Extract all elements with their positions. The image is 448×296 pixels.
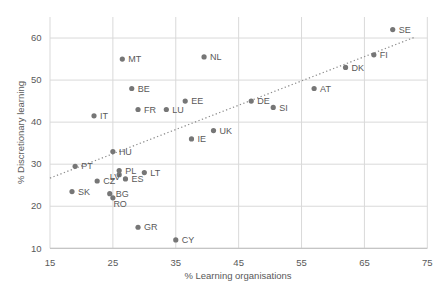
data-point-lu (164, 107, 169, 112)
data-point-label-dk: DK (352, 63, 365, 73)
trendline (50, 37, 415, 178)
data-point-es (123, 176, 128, 181)
data-point-label-si: SI (279, 103, 288, 113)
data-point-label-at: AT (320, 84, 331, 94)
data-point-label-sk: SK (78, 187, 90, 197)
data-point-be (129, 86, 134, 91)
data-point-sk (69, 189, 74, 194)
data-point-label-it: IT (100, 111, 109, 121)
data-point-gr (135, 225, 140, 230)
data-point-fr (135, 107, 140, 112)
data-point-label-mt: MT (128, 54, 141, 64)
x-axis-title: % Learning organisations (184, 270, 291, 281)
data-point-ee (183, 99, 188, 104)
data-point-fi (371, 52, 376, 57)
data-point-label-pt: PT (81, 161, 93, 171)
scatter-chart: 15253545556575102030405060 SEFIDKNLMTATB… (0, 0, 448, 296)
data-point-label-de: DE (257, 96, 270, 106)
x-tick-label: 55 (296, 257, 307, 268)
data-point-label-gr: GR (144, 222, 158, 232)
data-point-cz (95, 178, 100, 183)
y-tick-label: 40 (31, 116, 42, 127)
data-point-label-ee: EE (191, 96, 203, 106)
data-point-label-nl: NL (210, 52, 222, 62)
data-point-label-cz: CZ (103, 176, 115, 186)
data-point-label-lu: LU (172, 105, 184, 115)
data-point-mt (120, 56, 125, 61)
x-tick-label: 15 (45, 257, 56, 268)
gridlines-layer (50, 17, 427, 248)
data-point-label-se: SE (399, 25, 411, 35)
x-tick-label: 65 (359, 257, 370, 268)
x-tick-label: 35 (170, 257, 181, 268)
data-point-at (312, 86, 317, 91)
x-tick-label: 45 (233, 257, 244, 268)
data-point-uk (211, 128, 216, 133)
data-point-label-be: BE (138, 84, 150, 94)
y-tick-label: 10 (31, 243, 42, 254)
data-point-it (91, 113, 96, 118)
data-point-bg (107, 191, 112, 196)
axis-layer: 15253545556575102030405060 (31, 32, 433, 267)
data-point-label-ie: IE (197, 134, 206, 144)
y-tick-label: 60 (31, 32, 42, 43)
y-tick-label: 50 (31, 74, 42, 85)
data-point-pt (73, 164, 78, 169)
data-point-label-bg: BG (116, 189, 129, 199)
x-tick-label: 75 (422, 257, 433, 268)
data-point-label-uk: UK (219, 126, 232, 136)
data-point-ie (189, 136, 194, 141)
data-point-label-hu: HU (119, 147, 132, 157)
data-point-label-ro: RO (113, 199, 127, 209)
data-point-si (271, 105, 276, 110)
data-point-se (390, 27, 395, 32)
data-point-label-lt: LT (150, 168, 160, 178)
data-point-cy (173, 237, 178, 242)
data-points-layer: SEFIDKNLMTATBEDEEESILUFRITUKIEHUPTPLLTLV… (69, 25, 410, 245)
data-point-dk (343, 65, 348, 70)
data-point-label-fi: FI (380, 50, 388, 60)
x-tick-label: 25 (108, 257, 119, 268)
data-point-label-cy: CY (182, 235, 195, 245)
data-point-de (249, 99, 254, 104)
data-point-hu (110, 149, 115, 154)
trendline-layer (50, 37, 415, 178)
data-point-nl (201, 54, 206, 59)
scatter-plot-svg: 15253545556575102030405060 SEFIDKNLMTATB… (0, 0, 448, 296)
y-tick-label: 20 (31, 200, 42, 211)
y-tick-label: 30 (31, 158, 42, 169)
y-axis-title: % Discretionary learning (15, 81, 26, 184)
data-point-label-fr: FR (144, 105, 156, 115)
data-point-label-es: ES (131, 174, 143, 184)
